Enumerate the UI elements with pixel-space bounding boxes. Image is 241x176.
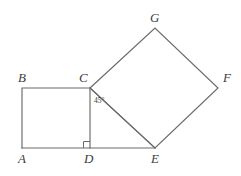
right-angle-marker-icon [84, 142, 91, 149]
square-cgfe-outline [90, 28, 218, 148]
square-abcd-outline [22, 88, 90, 148]
geometry-diagram: 45° A B C D E F G [0, 0, 241, 176]
vertex-label-E: E [150, 151, 159, 166]
vertex-label-F: F [222, 70, 232, 85]
angle-label-45: 45° [94, 96, 105, 105]
vertex-label-D: D [83, 151, 94, 166]
vertex-label-G: G [150, 10, 160, 25]
vertex-label-B: B [18, 70, 26, 85]
vertex-label-A: A [17, 151, 26, 166]
vertex-label-C: C [79, 70, 88, 85]
geometry-canvas: 45° A B C D E F G [0, 0, 241, 176]
